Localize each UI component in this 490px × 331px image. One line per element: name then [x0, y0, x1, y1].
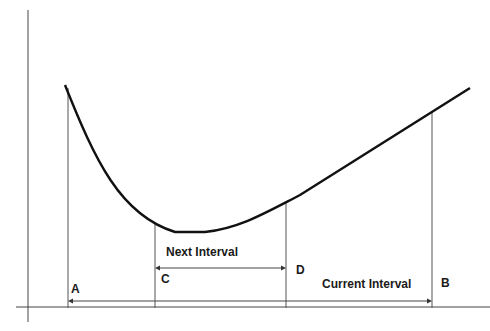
current-interval-label: Current Interval: [322, 278, 411, 290]
arrowhead-right-icon: [281, 266, 286, 271]
point-label-c: C: [161, 273, 170, 285]
arrowhead-left-icon: [155, 266, 160, 271]
point-label-a: A: [71, 283, 80, 295]
arrowhead-right-icon: [427, 299, 432, 304]
next-interval-label: Next Interval: [166, 246, 238, 258]
objective-curve: [65, 85, 470, 232]
arrowhead-left-icon: [68, 299, 73, 304]
point-label-b: B: [441, 277, 450, 289]
point-label-d: D: [296, 264, 305, 276]
